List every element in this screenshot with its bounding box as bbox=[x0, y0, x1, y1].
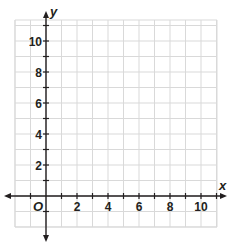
x-tick-label: 8 bbox=[167, 200, 174, 214]
y-axis-up-arrow-icon bbox=[43, 11, 49, 18]
x-tick-label: 4 bbox=[105, 200, 112, 214]
y-axis-down-arrow-icon bbox=[43, 235, 49, 242]
x-tick-label: 10 bbox=[194, 200, 208, 214]
y-tick-label: 10 bbox=[29, 35, 43, 49]
tick-labels: 246810246810 bbox=[29, 35, 208, 215]
origin-label: O bbox=[33, 199, 43, 214]
x-axis-right-arrow-icon bbox=[220, 193, 227, 199]
y-tick-label: 8 bbox=[35, 66, 42, 80]
y-tick-label: 2 bbox=[35, 159, 42, 173]
x-tick-label: 2 bbox=[74, 200, 81, 214]
y-tick-label: 6 bbox=[35, 97, 42, 111]
x-axis-left-arrow-icon bbox=[4, 193, 11, 199]
y-tick-label: 4 bbox=[35, 128, 42, 142]
x-axis-label: x bbox=[218, 178, 227, 193]
x-tick-label: 6 bbox=[136, 200, 143, 214]
coordinate-plane: 246810246810 x y O bbox=[0, 0, 232, 245]
y-axis-label: y bbox=[49, 4, 58, 19]
